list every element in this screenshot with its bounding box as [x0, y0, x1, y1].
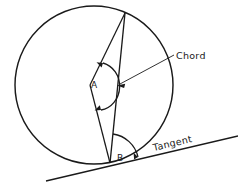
tangent-line: [46, 136, 238, 181]
angle-a-arc: [101, 63, 120, 110]
angle-a-label: A: [91, 80, 97, 90]
chord-leader-line: [120, 55, 174, 84]
ray-center-to-top: [90, 13, 125, 85]
chord-line: [110, 13, 125, 163]
chord-label: Chord: [176, 50, 206, 61]
angle-b-label: B: [117, 153, 123, 163]
angle-a-arrow-top: [97, 62, 104, 67]
geometry-figure: Chord Tangent A B: [0, 0, 238, 185]
ray-center-to-tangency: [90, 85, 110, 163]
